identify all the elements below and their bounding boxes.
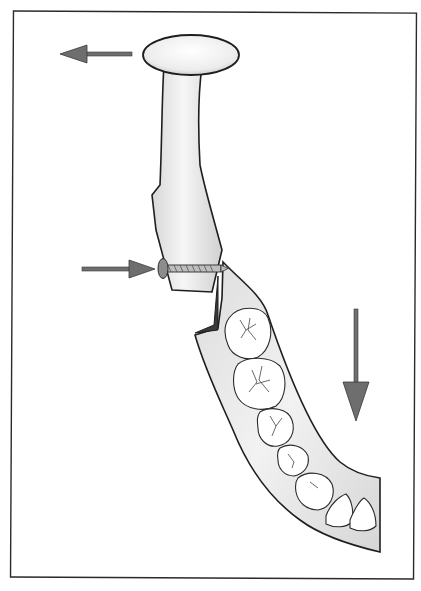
tooth-molar-3 [225,308,271,359]
illustration-frame [0,0,421,591]
arrow-right-icon [82,260,155,278]
condyle-head [143,35,239,75]
arrow-down-icon [343,309,369,421]
mandible-diagram [0,0,421,591]
arrow-left-icon [60,45,132,63]
tooth-molar-2 [234,358,285,409]
